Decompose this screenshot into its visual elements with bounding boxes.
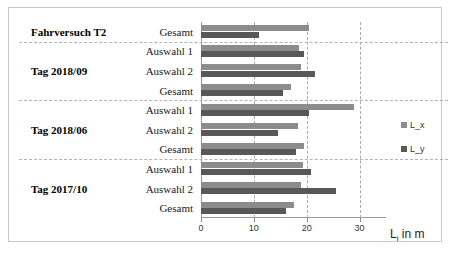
- tick-label-10: 10: [249, 223, 259, 233]
- group-label: Tag 2018/06: [31, 124, 87, 136]
- bar-lx: [201, 143, 304, 149]
- tick-label-0: 0: [198, 223, 203, 233]
- legend-label-lx: L_x: [410, 120, 425, 130]
- bar-lx: [201, 84, 291, 90]
- bar-ly: [201, 149, 296, 155]
- legend-item-ly: L_y: [401, 144, 425, 154]
- bar-ly: [201, 188, 336, 194]
- tick-label-20: 20: [302, 223, 312, 233]
- category-label: Auswahl 2: [146, 65, 193, 77]
- tick-label-30: 30: [355, 223, 365, 233]
- bar-ly: [201, 110, 309, 116]
- x-axis-title: Li in m: [390, 227, 424, 243]
- bar-lx: [201, 202, 294, 208]
- bar-lx: [201, 162, 303, 168]
- bar-lx: [201, 182, 301, 188]
- group-label: Tag 2018/09: [31, 65, 87, 77]
- bar-lx: [201, 45, 299, 51]
- group-label: Fahrversuch T2: [31, 26, 106, 38]
- plot-area: [201, 22, 386, 224]
- category-label: Gesamt: [159, 26, 193, 38]
- legend-label-ly: L_y: [410, 144, 425, 154]
- category-label: Gesamt: [159, 143, 193, 155]
- bar-ly: [201, 51, 304, 57]
- x-axis-title-main: L: [390, 227, 397, 241]
- group-separator: [19, 42, 448, 43]
- bar-lx: [201, 104, 354, 110]
- chart-frame: 0102030 GesamtAuswahl 1Auswahl 2GesamtAu…: [8, 7, 442, 242]
- bar-ly: [201, 208, 286, 214]
- bar-ly: [201, 32, 259, 38]
- bar-ly: [201, 130, 278, 136]
- bar-lx: [201, 64, 301, 70]
- category-label: Auswahl 1: [146, 104, 193, 116]
- chart-legend: L_x L_y: [401, 120, 425, 168]
- category-label: Gesamt: [159, 85, 193, 97]
- category-label: Gesamt: [159, 202, 193, 214]
- legend-swatch-lx: [401, 122, 407, 128]
- tick-20: [307, 218, 308, 222]
- gridline-30: [360, 22, 361, 218]
- tick-0: [201, 218, 202, 222]
- category-label: Auswahl 1: [146, 163, 193, 175]
- group-label: Tag 2017/10: [31, 183, 87, 195]
- category-label: Auswahl 2: [146, 124, 193, 136]
- bar-ly: [201, 90, 283, 96]
- group-separator: [19, 159, 448, 160]
- tick-10: [254, 218, 255, 222]
- tick-30: [360, 218, 361, 222]
- bar-ly: [201, 71, 315, 77]
- x-axis-title-tail: in m: [398, 227, 424, 241]
- legend-item-lx: L_x: [401, 120, 425, 130]
- category-label: Auswahl 2: [146, 183, 193, 195]
- bar-ly: [201, 169, 311, 175]
- bar-lx: [201, 25, 309, 31]
- x-axis-line: [201, 217, 386, 218]
- category-label: Auswahl 1: [146, 45, 193, 57]
- bar-lx: [201, 123, 298, 129]
- group-separator: [19, 100, 448, 101]
- legend-swatch-ly: [401, 146, 407, 152]
